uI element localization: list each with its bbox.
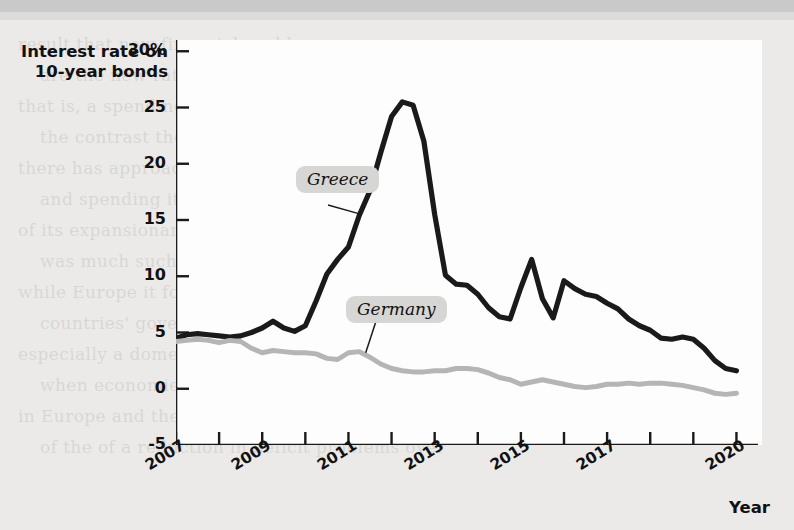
series-line-greece <box>176 102 736 371</box>
series-line-germany <box>176 339 736 394</box>
y-tick-label: 10 <box>106 265 166 284</box>
y-tick-label: 15 <box>106 209 166 228</box>
y-tick-label: 30% <box>106 40 166 59</box>
x-axis-title: Year <box>729 498 770 517</box>
series-label-greece: Greece <box>296 166 379 193</box>
y-axis-title-line2: 10-year bonds <box>35 62 168 81</box>
y-tick-label: 20 <box>106 153 166 172</box>
plot-area <box>176 40 762 445</box>
leader-line-greece <box>328 205 361 214</box>
y-tick-label: 0 <box>106 378 166 397</box>
series-label-germany: Germany <box>346 296 447 323</box>
y-tick-label: 25 <box>106 97 166 116</box>
chart-svg <box>176 40 762 445</box>
y-tick-label: 5 <box>106 322 166 341</box>
